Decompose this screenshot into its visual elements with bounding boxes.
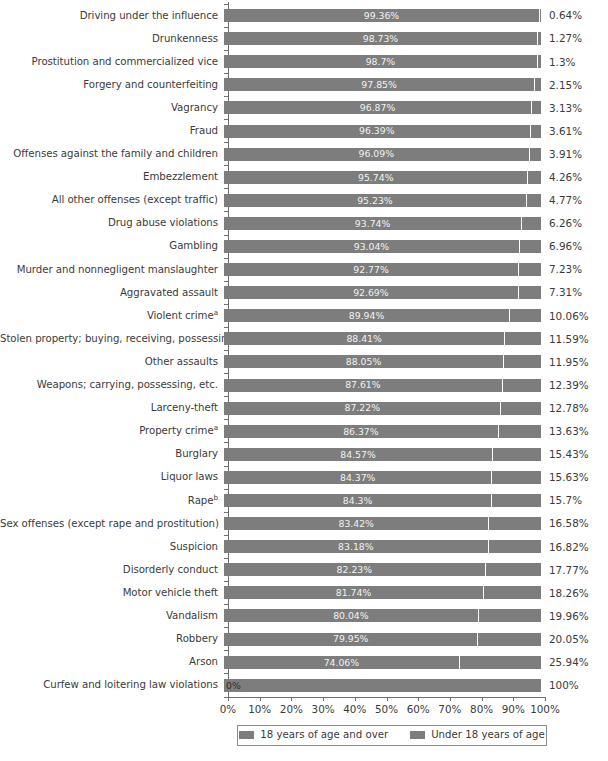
bar-segment-under18	[500, 402, 541, 415]
category-label: Drunkenness	[0, 33, 224, 45]
y-axis-tick	[224, 281, 228, 282]
x-axis-label: 0%	[220, 703, 236, 715]
bar-value-over18: 95.23%	[357, 196, 392, 205]
x-axis-tick	[355, 697, 356, 701]
chart-row: Embezzlement95.74%4.26%	[0, 166, 608, 189]
bar-track: 80.04%	[224, 609, 541, 622]
footnote-marker: b	[213, 492, 218, 501]
y-axis-tick	[224, 165, 228, 166]
legend-label-over18: 18 years of age and over	[260, 730, 388, 740]
category-label: Rapeb	[0, 495, 224, 507]
row-value-under18: 4.26%	[541, 172, 582, 182]
y-axis-tick	[224, 673, 228, 674]
chart-row: Murder and nonnegligent manslaughter92.7…	[0, 258, 608, 281]
category-label: Vagrancy	[0, 102, 224, 114]
row-value-under18: 11.59%	[541, 334, 589, 344]
chart-row: Robbery79.95%20.05%	[0, 628, 608, 651]
x-axis-tick	[260, 697, 261, 701]
legend-item-under18[interactable]: Under 18 years of age	[410, 730, 545, 740]
bar-track: 82.23%	[224, 563, 541, 576]
bar-track: 96.87%	[224, 101, 541, 114]
chart-row: Stolen property; buying, receiving, poss…	[0, 327, 608, 350]
row-value-under18: 3.61%	[541, 126, 582, 136]
bar-value-over18: 82.23%	[337, 565, 372, 574]
chart-row: Offenses against the family and children…	[0, 143, 608, 166]
y-axis-tick	[224, 466, 228, 467]
bar-value-over18: 92.69%	[353, 288, 388, 297]
legend-item-over18[interactable]: 18 years of age and over	[239, 730, 388, 740]
x-axis-label: 90%	[502, 703, 525, 715]
category-label: Weapons; carrying, possessing, etc.	[0, 379, 224, 391]
bar-segment-under18	[483, 586, 541, 599]
bar-segment-under18	[509, 309, 541, 322]
bar-segment-over18: 92.69%	[224, 286, 518, 299]
y-axis-tick	[224, 697, 228, 698]
y-axis-tick	[224, 396, 228, 397]
x-axis-tick	[482, 697, 483, 701]
footnote-marker: a	[214, 307, 218, 316]
bar-segment-over18: 96.39%	[224, 125, 530, 138]
bar-value-over18: 87.61%	[345, 380, 380, 389]
bar-value-over18: 84.57%	[340, 450, 375, 459]
bar-track: 83.42%	[224, 517, 541, 530]
bar-track: 98.73%	[224, 32, 541, 45]
y-axis-tick	[224, 188, 228, 189]
bar-segment-under18	[498, 425, 541, 438]
y-axis-tick	[224, 327, 228, 328]
bar-segment-over18: 87.22%	[224, 402, 500, 415]
row-value-under18: 1.27%	[541, 33, 582, 43]
bar-track: 93.04%	[224, 240, 541, 253]
bar-track: 99.36%	[224, 9, 541, 22]
bar-segment-under18	[534, 78, 541, 91]
bar-track: 97.85%	[224, 78, 541, 91]
category-label: Driving under the influence	[0, 10, 224, 22]
y-axis-tick	[224, 73, 228, 74]
row-value-under18: 12.39%	[541, 380, 589, 390]
bar-value-over18: 99.36%	[364, 11, 399, 20]
x-axis-label: 10%	[248, 703, 271, 715]
chart-row: Rapeb84.3%15.7%	[0, 489, 608, 512]
category-label: Gambling	[0, 240, 224, 252]
legend-swatch-under18	[410, 731, 425, 739]
bar-segment-under18	[502, 379, 541, 392]
bar-segment-under18	[526, 194, 541, 207]
chart-row: Suspicion83.18%16.82%	[0, 535, 608, 558]
bar-value-over18: 0%	[226, 681, 241, 690]
chart-row: Arson74.06%25.94%	[0, 651, 608, 674]
bar-segment-under18	[488, 517, 541, 530]
bar-segment-under18	[519, 240, 541, 253]
category-label: Forgery and counterfeiting	[0, 79, 224, 91]
row-value-under18: 6.26%	[541, 218, 582, 228]
category-label: Vandalism	[0, 610, 224, 622]
y-axis-tick	[224, 4, 228, 5]
bar-segment-over18: 79.95%	[224, 633, 477, 646]
bar-segment-under18	[529, 148, 541, 161]
bar-segment-under18	[537, 55, 541, 68]
category-label: Robbery	[0, 633, 224, 645]
bar-value-over18: 97.85%	[361, 80, 396, 89]
bar-track: 84.3%	[224, 494, 541, 507]
x-axis-tick	[291, 697, 292, 701]
bar-track: 92.77%	[224, 263, 541, 276]
bar-value-over18: 81.74%	[336, 588, 371, 597]
bar-track: 87.22%	[224, 402, 541, 415]
bar-track: 92.69%	[224, 286, 541, 299]
bar-segment-over18: 84.57%	[224, 448, 492, 461]
y-axis-tick	[224, 235, 228, 236]
category-label: Property crimea	[0, 425, 224, 437]
bar-value-over18: 86.37%	[343, 427, 378, 436]
bar-track: 84.37%	[224, 471, 541, 484]
bar-segment-over18: 86.37%	[224, 425, 498, 438]
bar-track: 88.41%	[224, 332, 541, 345]
y-axis-tick	[224, 558, 228, 559]
category-label: Arson	[0, 656, 224, 668]
bar-segment-over18: 88.41%	[224, 332, 504, 345]
bar-value-over18: 89.94%	[349, 311, 384, 320]
category-label: Curfew and loitering law violations	[0, 679, 224, 691]
chart-row: Other assaults88.05%11.95%	[0, 350, 608, 373]
y-axis-tick	[224, 419, 228, 420]
legend-label-under18: Under 18 years of age	[431, 730, 545, 740]
chart-row: Disorderly conduct82.23%17.77%	[0, 558, 608, 581]
bar-segment-over18: 80.04%	[224, 609, 478, 622]
chart-row: Vandalism80.04%19.96%	[0, 604, 608, 627]
